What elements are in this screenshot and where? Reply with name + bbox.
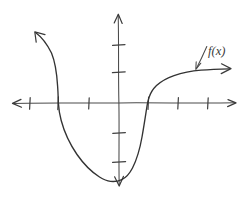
function-curve: [35, 32, 231, 182]
graph-sketch-figure: f(x): [0, 0, 243, 202]
x-axis-tick: [89, 98, 90, 109]
y-axis: [112, 14, 125, 186]
function-label-pointer-arrowhead: [196, 62, 201, 70]
y-axis-tick: [113, 162, 126, 163]
x-axis-tick: [208, 98, 209, 109]
y-axis-line: [118, 15, 119, 185]
x-axis-line: [13, 103, 235, 104]
function-label: f(x): [208, 44, 225, 58]
x-axis: [13, 97, 237, 110]
x-axis-tick: [30, 98, 31, 110]
y-axis-tick: [112, 72, 125, 73]
function-label-group: f(x): [196, 44, 226, 69]
y-axis-tick: [113, 45, 125, 46]
function-curve-path: [36, 33, 230, 182]
x-axis-tick: [178, 98, 179, 109]
function-label-pointer-stem: [196, 47, 206, 69]
graph-sketch-canvas: f(x): [0, 0, 243, 202]
y-axis-tick: [113, 133, 126, 134]
